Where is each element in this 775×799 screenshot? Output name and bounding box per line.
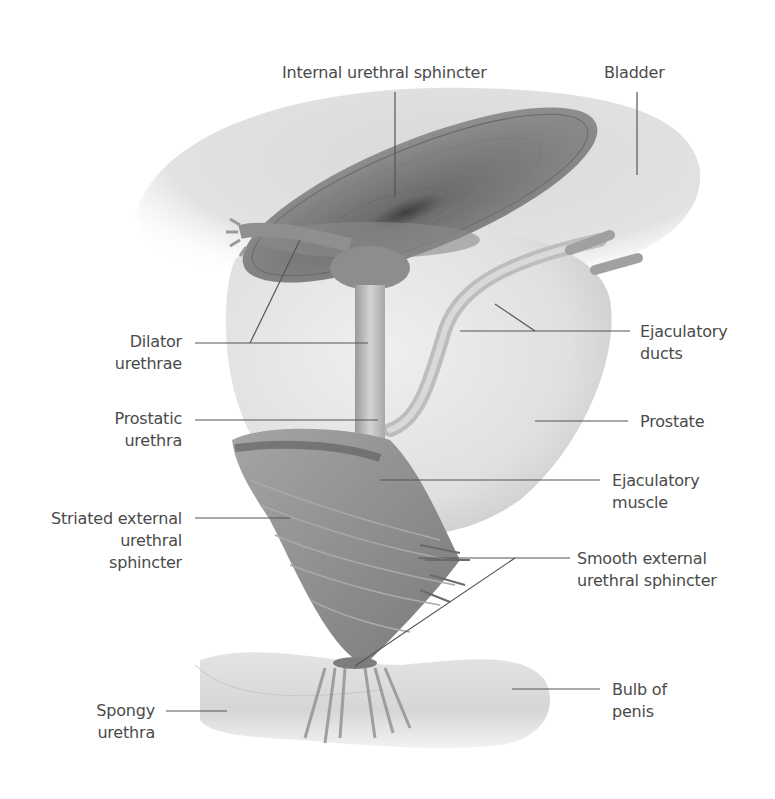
label-prostatic-urethra: Prostatic urethra [90, 408, 182, 452]
label-bladder: Bladder [604, 62, 665, 84]
anatomy-figure: Internal urethral sphincter Bladder Dila… [0, 0, 775, 799]
label-dilator-urethrae: Dilator urethrae [90, 331, 182, 375]
label-spongy-urethra: Spongy urethra [70, 700, 155, 744]
label-ejaculatory-muscle: Ejaculatory muscle [612, 470, 699, 514]
label-bulb-of-penis: Bulb of penis [612, 679, 667, 723]
label-prostate: Prostate [640, 411, 704, 433]
label-ejaculatory-ducts: Ejaculatory ducts [640, 321, 727, 365]
label-striated-external-urethral-sphincter: Striated external urethral sphincter [10, 508, 182, 574]
label-internal-urethral-sphincter: Internal urethral sphincter [282, 62, 487, 84]
label-smooth-external-urethral-sphincter: Smooth external urethral sphincter [577, 548, 717, 592]
